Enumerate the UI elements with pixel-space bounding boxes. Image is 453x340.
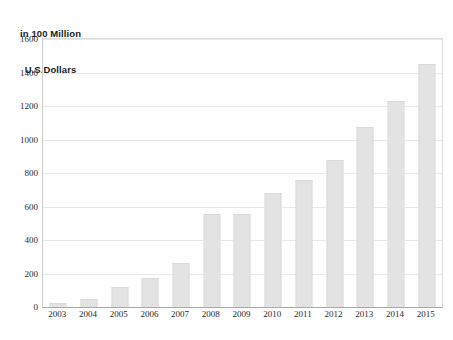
bar-slot: [350, 39, 381, 307]
bar[interactable]: [173, 263, 190, 307]
bar-slot: [411, 39, 442, 307]
bars-layer: [43, 39, 442, 307]
y-axis-tick-label: 1200: [20, 101, 38, 111]
x-axis-tick-label: 2009: [233, 309, 251, 319]
bar-slot: [227, 39, 258, 307]
bar[interactable]: [326, 160, 343, 307]
bar-slot: [258, 39, 289, 307]
bar-slot: [319, 39, 350, 307]
x-axis-tick-labels: 2003200420052006200720082009201020112012…: [42, 309, 441, 329]
bar-slot: [43, 39, 74, 307]
bar[interactable]: [111, 287, 128, 307]
x-axis-tick-label: 2011: [294, 309, 312, 319]
x-axis-tick-label: 2014: [386, 309, 404, 319]
bar-slot: [104, 39, 135, 307]
bar[interactable]: [142, 278, 159, 307]
x-axis-tick-label: 2010: [263, 309, 281, 319]
x-axis-tick-label: 2007: [171, 309, 189, 319]
bar[interactable]: [387, 101, 404, 307]
y-axis-tick-label: 1600: [20, 34, 38, 44]
bar-slot: [74, 39, 105, 307]
bar[interactable]: [418, 64, 435, 307]
x-axis-tick-label: 2008: [202, 309, 220, 319]
plot-area: 02004006008001000120014001600: [42, 38, 443, 308]
bar-slot: [381, 39, 412, 307]
bar-slot: [289, 39, 320, 307]
bar-slot: [196, 39, 227, 307]
x-axis-tick-label: 2013: [355, 309, 373, 319]
bar[interactable]: [50, 303, 67, 307]
x-axis-tick-label: 2004: [79, 309, 97, 319]
x-axis-tick-label: 2003: [48, 309, 66, 319]
y-axis-tick-label: 0: [34, 302, 39, 312]
x-axis-tick-label: 2012: [325, 309, 343, 319]
y-axis-tick-label: 800: [25, 168, 39, 178]
bar[interactable]: [295, 180, 312, 307]
x-axis-tick-label: 2015: [417, 309, 435, 319]
bar-slot: [166, 39, 197, 307]
y-axis-tick-label: 600: [25, 202, 39, 212]
bar[interactable]: [234, 214, 251, 307]
x-axis-tick-label: 2006: [140, 309, 158, 319]
y-axis-tick-label: 1000: [20, 135, 38, 145]
bar[interactable]: [265, 193, 282, 307]
bar-chart-figure: in 100 Million U.S.Dollars 0200400600800…: [0, 0, 453, 340]
y-axis-tick-label: 1400: [20, 68, 38, 78]
bar[interactable]: [357, 127, 374, 307]
y-axis-tick-label: 200: [25, 269, 39, 279]
bar[interactable]: [81, 299, 98, 307]
y-axis-tick-label: 400: [25, 235, 39, 245]
x-axis-tick-label: 2005: [110, 309, 128, 319]
bar[interactable]: [203, 214, 220, 307]
bar-slot: [135, 39, 166, 307]
